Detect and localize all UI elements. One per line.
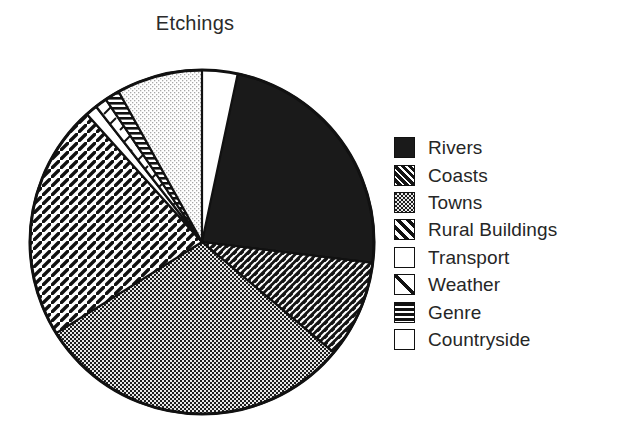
legend-item-towns[interactable]: Towns [394, 189, 632, 216]
legend-item-coasts[interactable]: Coasts [394, 161, 632, 188]
legend-item-label: Towns [428, 192, 482, 213]
legend-item-countryside[interactable]: Countryside [394, 326, 632, 353]
swatch-wide-diagonal-hatch-icon [394, 219, 415, 240]
legend-item-label: Rural Buildings [428, 219, 557, 240]
swatch-dark-stipple-icon [394, 192, 415, 213]
swatch-empty-icon [394, 329, 415, 350]
legend-item-label: Weather [428, 274, 500, 295]
legend-item-label: Coasts [428, 165, 488, 186]
legend-item-genre[interactable]: Genre [394, 298, 632, 325]
legend-item-label: Genre [428, 302, 481, 323]
swatch-horizontal-stripes-icon [394, 302, 415, 323]
pie-slices-group [30, 70, 374, 414]
pie-slice-rivers[interactable] [202, 74, 374, 263]
swatch-dark-diagonal-dash-icon [394, 165, 415, 186]
legend-item-label: Countryside [428, 329, 530, 350]
legend-item-rural-buildings[interactable]: Rural Buildings [394, 216, 632, 243]
swatch-single-diagonal-line-icon [394, 274, 415, 295]
pie-chart-canvas [6, 52, 396, 438]
legend-item-weather[interactable]: Weather [394, 271, 632, 298]
pie-chart-figure: Etchings [0, 0, 632, 438]
swatch-solid-black-icon [394, 137, 415, 158]
legend-item-label: Transport [428, 247, 510, 268]
swatch-empty-icon [394, 247, 415, 268]
chart-title: Etchings [105, 12, 285, 35]
legend-item-rivers[interactable]: Rivers [394, 134, 632, 161]
chart-legend: RiversCoastsTownsRural BuildingsTranspor… [394, 134, 632, 353]
legend-item-label: Rivers [428, 137, 482, 158]
legend-item-transport[interactable]: Transport [394, 244, 632, 271]
